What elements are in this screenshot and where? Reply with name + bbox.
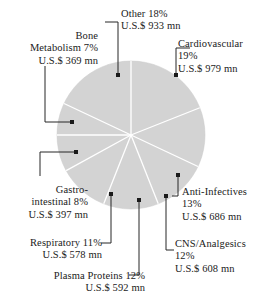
slice-label-gastro-name-2: intestinal 8% (2, 196, 88, 208)
slice-label-cns-analgesics: CNS/Analgesics 12% U.S.$ 608 mn (175, 238, 246, 275)
slice-label-cns-percent: 12% (175, 250, 246, 262)
slice-label-bone-metabolism: Bone Metabolism 7% U.S.$ 369 mn (2, 30, 98, 67)
slice-label-anti-value: U.S.$ 686 mn (182, 211, 247, 223)
slice-label-other: Other 18% U.S.$ 933 mn (121, 8, 181, 33)
slice-label-anti-name: Anti-Infectives (182, 186, 247, 198)
slice-label-cardiovascular-name: Cardiovascular (178, 38, 243, 50)
leader-dot-gastro (74, 150, 78, 154)
slice-label-bone-name-1: Bone (2, 30, 98, 42)
slice-label-cns-value: U.S.$ 608 mn (175, 263, 246, 275)
slice-label-gastro-name-1: Gastro- (2, 184, 88, 196)
slice-label-gastro-value: U.S.$ 397 mn (2, 209, 88, 221)
leader-dot-respiratory (109, 192, 113, 196)
slice-label-bone-value: U.S.$ 369 mn (2, 55, 98, 67)
slice-label-respiratory-name: Respiratory 11% (2, 237, 102, 249)
slice-label-respiratory-value: U.S.$ 578 mn (2, 249, 102, 261)
leader-dot-plasma (137, 198, 141, 202)
slice-label-plasma-value: U.S.$ 592 mn (10, 282, 145, 294)
slice-label-cardiovascular-value: U.S.$ 979 mn (178, 63, 243, 75)
leader-dot-anti (176, 173, 180, 177)
leader-dot-cns (164, 194, 168, 198)
slice-label-cardiovascular: Cardiovascular 19% U.S.$ 979 mn (178, 38, 243, 75)
pie-chart: Other 18% U.S.$ 933 mn Cardiovascular 19… (0, 0, 259, 304)
slice-label-bone-name-2: Metabolism 7% (2, 42, 98, 54)
slice-label-other-value: U.S.$ 933 mn (121, 20, 181, 32)
slice-label-plasma-name: Plasma Proteins 12% (10, 270, 145, 282)
slice-label-other-name: Other 18% (121, 8, 181, 20)
slice-label-respiratory: Respiratory 11% U.S.$ 578 mn (2, 237, 102, 262)
slice-label-cardiovascular-percent: 19% (178, 50, 243, 62)
slice-label-cns-name: CNS/Analgesics (175, 238, 246, 250)
slice-label-plasma-proteins: Plasma Proteins 12% U.S.$ 592 mn (10, 270, 145, 295)
leader-dot-bone (70, 120, 74, 124)
slice-label-anti-infectives: Anti-Infectives 13% U.S.$ 686 mn (182, 186, 247, 223)
slice-label-anti-percent: 13% (182, 198, 247, 210)
slice-label-gastro-intestinal: Gastro- intestinal 8% U.S.$ 397 mn (2, 184, 88, 221)
leader-dot-other (116, 73, 120, 77)
